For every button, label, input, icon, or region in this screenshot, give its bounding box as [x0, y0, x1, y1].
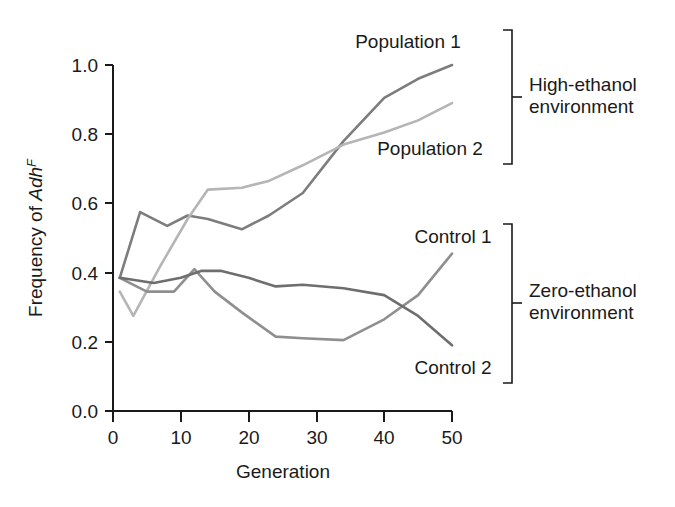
x-tick-label-40: 40 — [373, 427, 394, 448]
group-label-zero-ethanol-line1: Zero-ethanol — [529, 280, 637, 301]
group-bracket-high-ethanol — [503, 30, 522, 164]
group-label-zero-ethanol-line2: environment — [529, 302, 634, 323]
svg-text:Frequency of AdhF: Frequency of AdhF — [24, 158, 46, 317]
x-tick-label-0: 0 — [108, 427, 119, 448]
x-axis-title: Generation — [236, 461, 330, 482]
x-axis — [113, 411, 452, 422]
y-tick-label-0.8: 0.8 — [72, 124, 98, 145]
chart-figure: 1.0 0.8 0.6 0.4 0.2 0.0 0 10 20 30 40 50… — [0, 0, 675, 507]
x-tick-labels: 0 10 20 30 40 50 — [108, 427, 463, 448]
chart-svg: 1.0 0.8 0.6 0.4 0.2 0.0 0 10 20 30 40 50… — [0, 0, 675, 507]
group-label-high-ethanol-line2: environment — [529, 96, 634, 117]
y-tick-label-1.0: 1.0 — [72, 55, 98, 76]
group-label-high-ethanol-line1: High-ethanol — [529, 74, 637, 95]
series-label-population-2: Population 2 — [377, 138, 483, 159]
x-tick-label-20: 20 — [238, 427, 259, 448]
data-lines — [120, 65, 452, 345]
y-axis-title-main: Frequency of — [25, 201, 46, 317]
series-label-control-1: Control 1 — [414, 226, 491, 247]
y-tick-label-0.2: 0.2 — [72, 332, 98, 353]
y-axis — [105, 65, 113, 411]
series-label-control-2: Control 2 — [414, 357, 491, 378]
y-axis-title-gene: Adh — [25, 167, 46, 202]
y-tick-label-0.6: 0.6 — [72, 193, 98, 214]
series-line-control-2 — [120, 271, 452, 345]
y-tick-label-0.0: 0.0 — [72, 401, 98, 422]
group-bracket-zero-ethanol — [503, 224, 522, 383]
series-label-population-1: Population 1 — [355, 31, 461, 52]
x-tick-label-30: 30 — [306, 427, 327, 448]
y-axis-title-superscript: F — [24, 158, 39, 167]
x-tick-label-10: 10 — [170, 427, 191, 448]
y-axis-title: Frequency of AdhF — [24, 158, 46, 317]
series-line-population-1 — [120, 65, 452, 278]
y-tick-label-0.4: 0.4 — [72, 263, 99, 284]
series-line-control-1 — [120, 254, 452, 341]
x-tick-label-50: 50 — [441, 427, 462, 448]
y-tick-labels: 1.0 0.8 0.6 0.4 0.2 0.0 — [72, 55, 99, 422]
series-line-population-2 — [120, 103, 452, 316]
